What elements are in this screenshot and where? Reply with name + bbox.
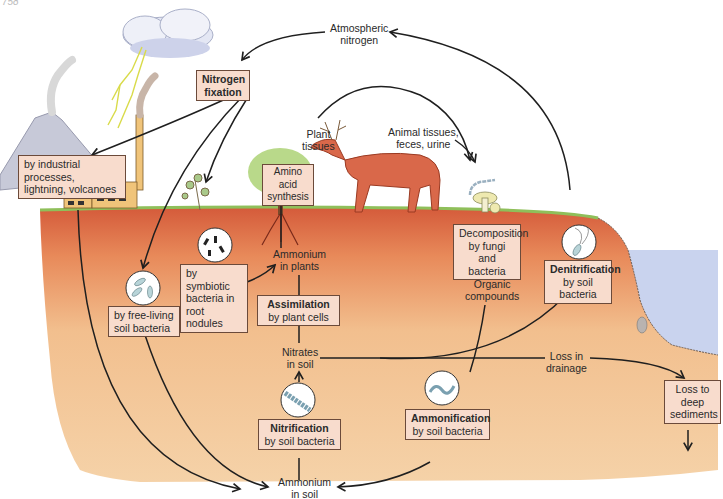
nitrogen-cycle-diagram: 758 <box>0 0 723 499</box>
bacteria-circle-symbiotic <box>198 228 232 262</box>
diagram-artwork <box>0 0 723 499</box>
label-atmospheric-nitrogen: Atmosphericnitrogen <box>330 22 388 46</box>
arrow-fixation-to-industrial <box>92 97 230 155</box>
box-nitrification: Nitrificationby soil bacteria <box>258 419 341 450</box>
box-nitrogen-fixation: Nitrogenfixation <box>196 70 250 101</box>
cloud-illustration <box>123 9 213 58</box>
label-plant-tissues: Planttissues <box>302 128 335 152</box>
box-free-living-bacteria: by free-livingsoil bacteria <box>108 306 180 337</box>
box-loss-to-sediments: Loss todeepsediments <box>664 380 721 424</box>
bacteria-circle-nitrification <box>281 383 315 417</box>
bacteria-circle-ammonification <box>425 371 459 405</box>
label-nitrates-in-soil: Nitratesin soil <box>282 346 318 370</box>
soil-layer <box>40 207 718 482</box>
box-ammonification: Ammonificationby soil bacteria <box>405 409 490 440</box>
box-assimilation: Assimilationby plant cells <box>257 295 340 326</box>
label-ammonium-in-soil: Ammoniumin soil <box>278 476 331 499</box>
label-organic-compounds: Organiccompounds <box>465 278 519 302</box>
box-denitrification: Denitrificationby soilbacteria <box>544 260 612 304</box>
label-animal-tissues: Animal tissues,feces, urine <box>388 126 459 150</box>
arrow-atmosphere-to-fixation <box>242 32 325 60</box>
label-loss-in-drainage: Loss indrainage <box>546 350 587 374</box>
bacteria-circle-denitrification <box>562 225 596 259</box>
arrow-fixation-to-symbiotic <box>206 97 248 182</box>
box-symbiotic-bacteria: by symbioticbacteria inroot nodules <box>180 264 248 333</box>
bacteria-circle-free-living <box>126 271 160 305</box>
label-ammonium-in-plants: Ammoniumin plants <box>273 248 326 272</box>
legume-plant-illustration <box>182 174 209 210</box>
box-industrial-processes: by industrial processes,lightning, volca… <box>18 155 126 199</box>
box-decomposition: Decompositionby fungiand bacteria <box>453 224 521 280</box>
box-amino-acid-synthesis: Amino acidsynthesis <box>262 164 314 206</box>
